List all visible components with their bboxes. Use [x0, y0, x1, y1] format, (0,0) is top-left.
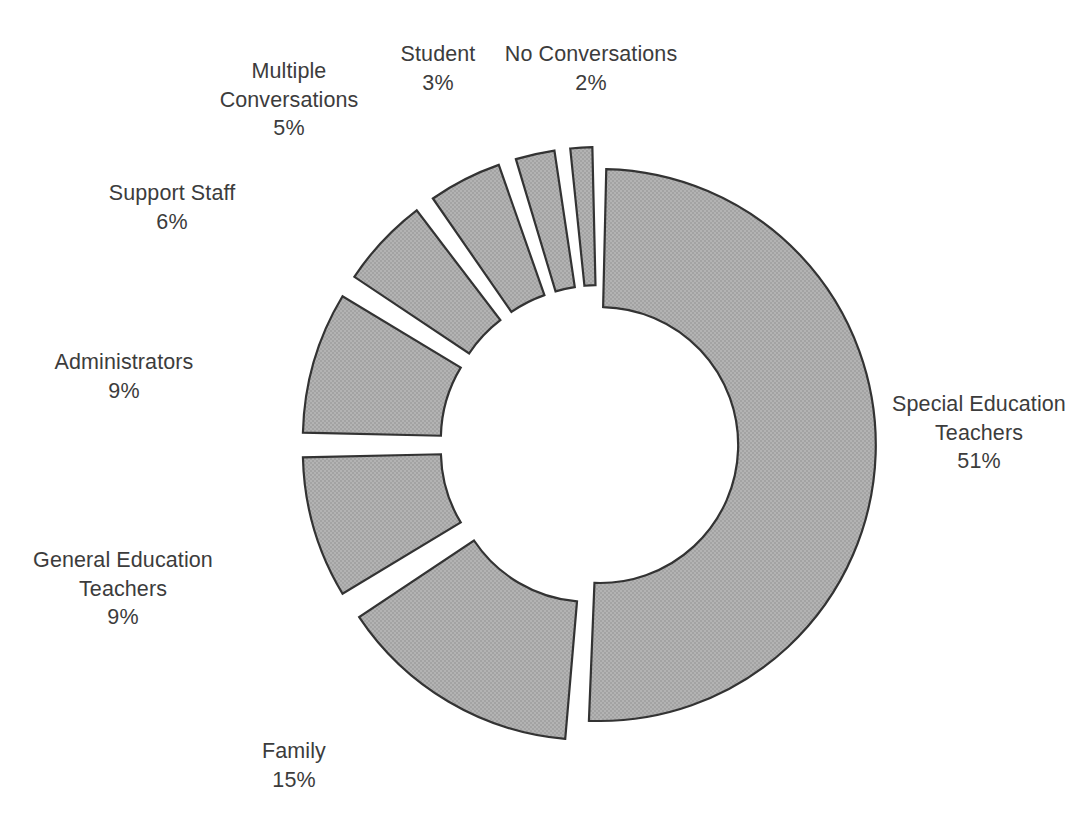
slice-label-name: No Conversations [489, 40, 693, 69]
slice-label-name: Administrators [37, 348, 211, 377]
slice-label-name: Family [214, 737, 374, 766]
slice-label-value: 2% [489, 69, 693, 98]
slice-label: General EducationTeachers9% [25, 546, 221, 632]
slices-group [303, 147, 876, 739]
pie-slice[interactable] [570, 147, 595, 286]
slice-label-value: 51% [872, 447, 1086, 476]
slice-label-value: 6% [96, 208, 248, 237]
slice-label: Student3% [375, 40, 501, 97]
slice-label-value: 9% [37, 377, 211, 406]
slice-label-name: Multiple [212, 57, 366, 86]
slice-label: MultipleConversations5% [212, 57, 366, 143]
slice-label-name: Support Staff [96, 179, 248, 208]
slice-label-value: 5% [212, 114, 366, 143]
slice-label: Family15% [214, 737, 374, 794]
slice-label: No Conversations2% [489, 40, 693, 97]
pie-slice[interactable] [359, 541, 577, 739]
slice-label-value: 3% [375, 69, 501, 98]
pie-slice[interactable] [589, 169, 876, 721]
slice-label-name: Teachers [872, 419, 1086, 448]
slice-label-name: Conversations [212, 86, 366, 115]
slice-label: Special EducationTeachers51% [872, 390, 1086, 476]
slice-label-name: General Education [25, 546, 221, 575]
slice-label-name: Special Education [872, 390, 1086, 419]
slice-label-value: 9% [25, 603, 221, 632]
slice-label-value: 15% [214, 766, 374, 795]
slice-label: Support Staff6% [96, 179, 248, 236]
donut-chart: Special EducationTeachers51%Family15%Gen… [0, 0, 1086, 825]
slice-label: Administrators9% [37, 348, 211, 405]
slice-label-name: Student [375, 40, 501, 69]
slice-label-name: Teachers [25, 575, 221, 604]
